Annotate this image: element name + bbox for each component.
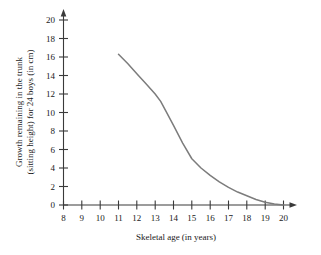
x-axis-title: Skeletal age (in years) [136,232,216,242]
y-tick-label-0: 0 [51,200,56,210]
y-tick-label-18: 18 [46,34,56,44]
chart-page: 0 2 4 6 8 10 12 14 16 18 20 [0,0,321,255]
x-tick-label-16: 16 [206,213,216,223]
y-tick-label-16: 16 [46,52,56,62]
y-tick-label-4: 4 [51,163,56,173]
y-tick-label-2: 2 [51,182,56,192]
x-tick-label-8: 8 [61,213,66,223]
y-tick-label-14: 14 [46,71,56,81]
y-tick-label-12: 12 [46,89,55,99]
x-tick-label-12: 12 [132,213,141,223]
y-tick-label-10: 10 [46,108,56,118]
y-axis-title-line2: (sitting height) for 24 boys (in cm) [25,50,35,175]
y-tick-label-20: 20 [46,15,56,25]
x-tick-label-9: 9 [80,213,85,223]
x-tick-label-11: 11 [114,213,123,223]
x-tick-label-20: 20 [279,213,289,223]
y-tick-label-6: 6 [51,145,56,155]
x-tick-label-15: 15 [187,213,197,223]
x-tick-label-17: 17 [224,213,234,223]
growth-remaining-line-chart: 0 2 4 6 8 10 12 14 16 18 20 [0,0,321,255]
x-tick-label-14: 14 [169,213,179,223]
x-tick-label-10: 10 [96,213,106,223]
x-tick-label-18: 18 [242,213,252,223]
x-tick-label-19: 19 [261,213,271,223]
y-axis-title-line1: Growth remaining in the trunk [14,57,24,167]
x-tick-label-13: 13 [151,213,161,223]
y-tick-label-8: 8 [51,126,56,136]
